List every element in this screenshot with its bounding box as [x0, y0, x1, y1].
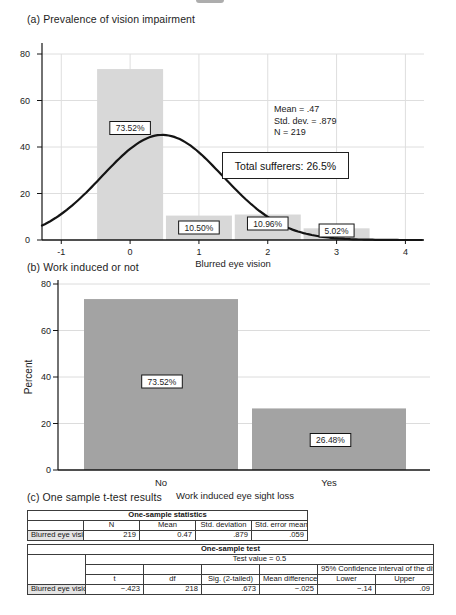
test-table-title: One-sample test [28, 545, 434, 555]
empty-cell [144, 565, 202, 575]
ci-header: 95% Confidence interval of the differenc… [318, 565, 434, 575]
stats-value-mean: 0.47 [140, 531, 196, 541]
panel-a-title: (a) Prevalence of vision impairment [27, 13, 195, 25]
y-axis-title: Percent [23, 360, 34, 395]
total-sufferers-callout: Total sufferers: 26.5% [222, 152, 349, 179]
empty-cell [202, 565, 260, 575]
category-label: No [155, 477, 167, 488]
stats-col-mean: Mean [140, 521, 196, 531]
stats-value-n: 219 [84, 531, 140, 541]
y-tick-label: 60 [20, 96, 30, 106]
stats-value-stderr: .059 [252, 531, 308, 541]
empty-cell [260, 565, 318, 575]
stat-mean: Mean = .47 [274, 104, 337, 116]
stats-row-label: Blurred eye vision [28, 531, 84, 541]
scan-artifact [196, 0, 224, 3]
x-tick-label: 0 [128, 247, 133, 257]
test-col-upper: Upper [376, 575, 434, 585]
stats-table-title: One-sample statistics [28, 511, 308, 521]
y-tick-label: 20 [20, 189, 30, 199]
panel-b-title: (b) Work induced or not [27, 261, 139, 273]
test-value-sig: .673 [202, 585, 260, 595]
bar-label: 10.96% [253, 219, 282, 229]
category-label: Yes [321, 477, 337, 488]
bar-label: 26.48% [316, 435, 345, 445]
x-tick-label: 3 [334, 247, 339, 257]
bar-label: 73.52% [148, 377, 177, 387]
y-tick-label: 0 [25, 235, 30, 245]
stat-n: N = 219 [274, 127, 337, 139]
y-tick-label: 40 [41, 372, 51, 382]
stat-stddev: Std. dev. = .879 [274, 116, 337, 128]
y-tick-label: 0 [46, 465, 51, 475]
test-value-upper: .09 [376, 585, 434, 595]
stats-value-stddev: .879 [196, 531, 252, 541]
stats-col-stddev: Std. deviation [196, 521, 252, 531]
empty-cell [86, 565, 144, 575]
stats-col-n: N [84, 521, 140, 531]
test-value-df: 218 [144, 585, 202, 595]
test-table-corner-cell [28, 555, 86, 585]
test-value-meandiff: −.025 [260, 585, 318, 595]
test-value-lower: −.14 [318, 585, 376, 595]
test-col-sig: Sig. (2-tailed) [202, 575, 260, 585]
test-row-label: Blurred eye vision [28, 585, 86, 595]
y-tick-label: 60 [41, 326, 51, 336]
test-col-df: df [144, 575, 202, 585]
bar-label: 5.02% [325, 226, 350, 236]
one-sample-test-table: One-sample test Test value = 0.5 95% Con… [27, 544, 434, 595]
panel-c-title: (c) One sample t-test results [27, 491, 162, 503]
x-tick-label: 2 [265, 247, 270, 257]
stats-col-stderr: Std. error mean [252, 521, 308, 531]
test-value-t: −.423 [86, 585, 144, 595]
test-col-lower: Lower [318, 575, 376, 585]
work-induced-bar-chart: 020406080PercentNoYesWork induced eye si… [0, 273, 456, 508]
one-sample-statistics-table: One-sample statistics N Mean Std. deviat… [27, 510, 308, 541]
stats-table-corner-cell [28, 521, 84, 531]
y-tick-label: 80 [20, 49, 30, 59]
x-tick-label: -1 [57, 247, 65, 257]
x-tick-label: 1 [196, 247, 201, 257]
bar-label: 73.52% [116, 123, 145, 133]
test-col-meandiff: Mean difference [260, 575, 318, 585]
x-axis-title: Blurred eye vision [195, 258, 271, 269]
x-axis-title: Work induced eye sight loss [176, 490, 294, 501]
y-tick-label: 20 [41, 419, 51, 429]
histogram-bar [97, 69, 163, 240]
distribution-stats-note: Mean = .47 Std. dev. = .879 N = 219 [274, 104, 337, 139]
bar-label: 10.50% [185, 223, 214, 233]
y-tick-label: 40 [20, 142, 30, 152]
y-tick-label: 80 [41, 279, 51, 289]
x-tick-label: 4 [403, 247, 408, 257]
test-col-t: t [86, 575, 144, 585]
test-value-header: Test value = 0.5 [86, 555, 434, 565]
